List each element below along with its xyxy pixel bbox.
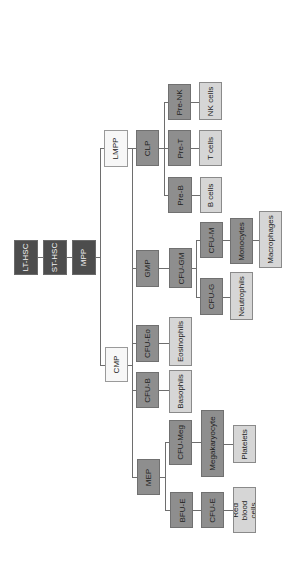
edge-mega-plt	[224, 444, 233, 445]
node-label: CMP	[112, 356, 121, 374]
edge-myeloid-vertical	[132, 148, 133, 477]
node-label: Red blood cells	[233, 500, 256, 521]
node-label: LMPP	[111, 138, 120, 160]
node-macrophages: Macrophages	[259, 211, 282, 268]
node-cfu-eo: CFU-Eo	[136, 325, 159, 362]
node-cfu-g: CFU-G	[200, 278, 223, 315]
node-nk-cells: NK cells	[199, 82, 222, 120]
node-label: MPP	[80, 249, 89, 266]
node-pre-nk: Pre-NK	[168, 84, 191, 120]
edge-cfue-rbc	[224, 510, 233, 511]
node-cfu-b: CFU-B	[136, 372, 159, 408]
node-label: B cells	[207, 183, 216, 207]
node-label: Pre-T	[175, 138, 184, 158]
node-gmp: GMP	[136, 250, 159, 287]
node-neutrophils: Neutrophils	[230, 272, 253, 320]
node-cfu-e: CFU-E	[201, 492, 224, 528]
node-cfu-meg: CFU-Meg	[169, 420, 192, 465]
node-label: ST-HSC	[51, 243, 60, 272]
node-label: LT-HSC	[22, 244, 31, 272]
node-label: CFU-Meg	[176, 425, 185, 460]
node-monocytes: Monocytes	[230, 218, 253, 264]
node-megakaryocyte: Megakaryocyte	[201, 410, 224, 477]
node-label: Platelets	[240, 429, 249, 460]
edge-cfumeg-mega	[192, 442, 201, 443]
node-label: CFU-GM	[176, 252, 185, 284]
node-label: T cells	[206, 137, 215, 160]
edge-pret-t	[191, 148, 199, 149]
edge-gmp-cfugm	[159, 268, 169, 269]
node-basophils: Basophils	[169, 370, 192, 413]
node-label: Pre-NK	[175, 89, 184, 115]
node-label: Monocytes	[237, 222, 246, 261]
edge-cmp-out	[128, 365, 132, 366]
node-label: CFU-G	[207, 284, 216, 309]
node-lt-hsc: LT-HSC	[14, 240, 38, 275]
node-label: Megakaryocyte	[208, 416, 217, 470]
node-cfu-gm: CFU-GM	[169, 248, 192, 288]
node-red-blood-cells: Red blood cells	[233, 487, 256, 533]
edge-preb-b	[192, 195, 200, 196]
edge-prenk-nk	[191, 102, 199, 103]
node-label: CFU-Eo	[143, 329, 152, 358]
node-label: GMP	[143, 259, 152, 277]
node-label: Macrophages	[266, 215, 275, 263]
node-t-cells: T cells	[199, 130, 222, 166]
edge-mep-vertical	[165, 442, 166, 510]
node-mpp: MPP	[72, 240, 96, 275]
node-label: BFU-E	[177, 498, 186, 522]
node-clp: CLP	[136, 130, 159, 166]
node-lmpp: LMPP	[104, 130, 128, 167]
node-cfu-m: CFU-M	[200, 222, 223, 258]
edge-cfueo-eos	[159, 343, 169, 344]
node-eosinophils: Eosinophils	[169, 317, 192, 366]
node-label: NK cells	[206, 86, 215, 115]
node-label: Neutrophils	[237, 276, 246, 316]
node-label: CFU-M	[207, 227, 216, 253]
node-pre-b: Pre-B	[168, 177, 192, 213]
edge-cfugm-vertical	[196, 240, 197, 297]
edge-cfum-mono	[223, 240, 230, 241]
node-label: Basophils	[176, 374, 185, 409]
node-label: MEP	[144, 468, 153, 485]
edge-cfub-baso	[159, 390, 169, 391]
node-label: Pre-B	[175, 185, 184, 205]
node-pre-t: Pre-T	[168, 130, 191, 166]
node-label: Eosinophils	[176, 321, 185, 362]
node-b-cells: B cells	[200, 177, 222, 213]
node-label: CFU-E	[208, 498, 217, 522]
edge-mpp-vertical	[100, 148, 101, 365]
node-label: CLP	[143, 140, 152, 156]
node-st-hsc: ST-HSC	[43, 240, 67, 275]
node-bfu-e: BFU-E	[170, 492, 193, 528]
node-platelets: Platelets	[233, 425, 256, 463]
edge-bfue-cfue	[193, 510, 201, 511]
edge-cfug-neutro	[223, 297, 230, 298]
node-cmp: CMP	[105, 347, 128, 382]
node-mep: MEP	[137, 459, 160, 495]
node-label: CFU-B	[143, 378, 152, 402]
